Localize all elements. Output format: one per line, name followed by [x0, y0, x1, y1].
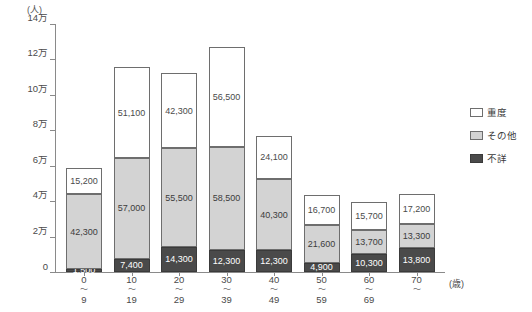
bar-segment-sonota[interactable]: 58,500	[209, 147, 245, 251]
bar-stack[interactable]: 14,30055,50042,300	[161, 73, 197, 272]
bar-stack[interactable]: 12,30058,50056,500	[209, 47, 245, 273]
legend-swatch-icon	[470, 154, 483, 163]
x-axis-tick	[369, 272, 370, 276]
bar-segment-judo[interactable]: 15,700	[351, 202, 387, 230]
bar-segment-fushou[interactable]: 14,300	[161, 247, 197, 272]
x-axis-unit-label: (歳)	[449, 277, 464, 290]
bar-stack[interactable]: 7,40057,00051,100	[114, 67, 150, 272]
x-axis-category-label: 0〜9	[60, 274, 108, 312]
x-axis-tick	[417, 272, 418, 276]
legend-swatch-icon	[470, 131, 483, 140]
bar-stack[interactable]: 10,30013,70015,700	[351, 202, 387, 272]
x-label-to: 49	[250, 294, 298, 305]
bar-segment-judo[interactable]: 15,200	[66, 168, 102, 195]
x-axis-category-label: 20〜29	[155, 274, 203, 312]
x-axis-category-label: 30〜39	[203, 274, 251, 312]
chart-legend: 重度その他不詳	[470, 105, 517, 174]
bar-segment-sonota[interactable]: 13,300	[399, 224, 435, 248]
bar-stack[interactable]: 13,80013,30017,200	[399, 194, 435, 272]
x-axis-tick	[227, 272, 228, 276]
bar-segment-judo[interactable]: 17,200	[399, 194, 435, 224]
bar-segment-sonota[interactable]: 13,700	[351, 230, 387, 254]
legend-item[interactable]: 重度	[470, 105, 517, 119]
x-label-to: 29	[155, 294, 203, 305]
bar-segment-fushou[interactable]: 10,300	[351, 254, 387, 272]
x-label-separator: 〜	[345, 285, 393, 294]
x-axis-tick	[84, 272, 85, 276]
bar-segment-fushou[interactable]: 12,300	[209, 250, 245, 272]
x-axis-tick	[132, 272, 133, 276]
bar-segment-sonota[interactable]: 57,000	[114, 158, 150, 259]
stacked-bar-chart: (人) 14万12万10万8万6万4万2万0 1,50042,30015,200…	[0, 0, 532, 312]
x-axis-category-label: 10〜19	[108, 274, 156, 312]
bar-segment-sonota[interactable]: 42,300	[66, 194, 102, 269]
x-label-separator: 〜	[108, 285, 156, 294]
legend-item[interactable]: 不詳	[470, 151, 517, 165]
x-label-separator: 〜	[60, 285, 108, 294]
x-axis-category-label: 60〜69	[345, 274, 393, 312]
bar-stack[interactable]: 1,50042,30015,200	[66, 168, 102, 273]
x-label-separator: 〜	[393, 285, 441, 294]
legend-label: 重度	[487, 105, 507, 119]
bar-segment-judo[interactable]: 42,300	[161, 73, 197, 148]
bar-stack[interactable]: 12,30040,30024,100	[256, 136, 292, 272]
x-label-to: 9	[60, 294, 108, 305]
bar-segment-judo[interactable]: 16,700	[304, 195, 340, 225]
legend-item[interactable]: その他	[470, 128, 517, 142]
x-label-to: 19	[108, 294, 156, 305]
bar-segment-sonota[interactable]: 55,500	[161, 148, 197, 246]
x-label-separator: 〜	[250, 285, 298, 294]
bar-segment-judo[interactable]: 56,500	[209, 47, 245, 147]
x-axis-category-label: 40〜49	[250, 274, 298, 312]
legend-label: 不詳	[487, 151, 507, 165]
legend-swatch-icon	[470, 108, 483, 117]
bar-segment-fushou[interactable]: 13,800	[399, 248, 435, 272]
bar-segment-judo[interactable]: 24,100	[256, 136, 292, 179]
x-label-to: 39	[203, 294, 251, 305]
x-label-separator: 〜	[155, 285, 203, 294]
bars-layer: 1,50042,30015,2007,40057,00051,10014,300…	[0, 0, 532, 312]
x-axis-tick	[322, 272, 323, 276]
x-axis-category-label: 50〜59	[298, 274, 346, 312]
x-axis-tick	[274, 272, 275, 276]
x-label-to: 69	[345, 294, 393, 305]
x-label-separator: 〜	[203, 285, 251, 294]
bar-segment-fushou[interactable]: 4,900	[304, 263, 340, 272]
x-axis-category-label: 70〜	[393, 274, 441, 312]
bar-segment-fushou[interactable]: 7,400	[114, 259, 150, 272]
bar-segment-sonota[interactable]: 40,300	[256, 179, 292, 250]
bar-segment-sonota[interactable]: 21,600	[304, 225, 340, 263]
x-label-separator: 〜	[298, 285, 346, 294]
bar-segment-fushou[interactable]: 12,300	[256, 250, 292, 272]
x-axis-tick	[179, 272, 180, 276]
bar-stack[interactable]: 4,90021,60016,700	[304, 195, 340, 272]
bar-segment-judo[interactable]: 51,100	[114, 67, 150, 158]
x-label-to: 59	[298, 294, 346, 305]
legend-label: その他	[487, 128, 517, 142]
